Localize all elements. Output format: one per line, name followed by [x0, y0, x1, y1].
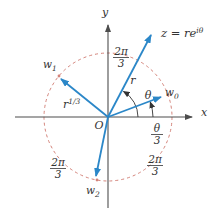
- theta-third-fraction: θ 3: [151, 122, 163, 146]
- theta-third-arc: [150, 102, 153, 117]
- w2-label: w2: [86, 184, 100, 199]
- two-pi-third-fraction-bottom-right: 2π 3: [147, 153, 163, 177]
- r-cube-root-superscript: 1/3: [68, 97, 80, 106]
- two-pi-third-br-numerator: 2π: [147, 153, 163, 165]
- theta-third-numerator: θ: [154, 122, 161, 134]
- two-pi-third-br-denominator: 3: [152, 165, 159, 177]
- theta-arc: [124, 92, 138, 118]
- w2-dot: [96, 179, 99, 182]
- w0-label: w0: [165, 86, 179, 101]
- w0-label-subscript: 0: [174, 92, 179, 101]
- z-label-superscript: iθ: [196, 26, 203, 35]
- two-pi-third-top-denominator: 3: [118, 57, 125, 69]
- theta-label: θ: [145, 89, 152, 102]
- two-pi-third-fraction-bottom-left: 2π 3: [50, 156, 66, 180]
- w1-dot: [58, 75, 61, 78]
- r-label: r: [130, 74, 136, 87]
- z-label: z = reiθ: [160, 26, 204, 41]
- origin-label: O: [94, 119, 103, 132]
- two-pi-third-top-numerator: 2π: [113, 45, 129, 57]
- z-label-base: z = re: [160, 26, 197, 40]
- two-pi-third-bl-denominator: 3: [55, 168, 62, 180]
- w2-label-base: w: [86, 184, 95, 196]
- w1-label-base: w: [43, 58, 52, 70]
- y-axis-label: y: [101, 6, 109, 19]
- two-pi-third-fraction-top: 2π 3: [113, 45, 129, 69]
- complex-cube-roots-diagram: y x O z = reiθ r r1/3 θ θ 3 2π 3 2π 3 2π…: [0, 0, 219, 215]
- diagram-canvas: y x O z = reiθ r r1/3 θ θ 3 2π 3 2π 3 2π…: [0, 0, 219, 215]
- w0-label-base: w: [165, 86, 174, 98]
- w1-label: w1: [43, 58, 57, 73]
- r-cube-root-label: r1/3: [63, 97, 81, 112]
- x-axis-label: x: [201, 106, 208, 119]
- w2-label-subscript: 2: [94, 190, 100, 199]
- w1-label-subscript: 1: [52, 64, 57, 73]
- theta-third-denominator: 3: [154, 134, 161, 146]
- two-pi-third-bl-numerator: 2π: [50, 156, 66, 168]
